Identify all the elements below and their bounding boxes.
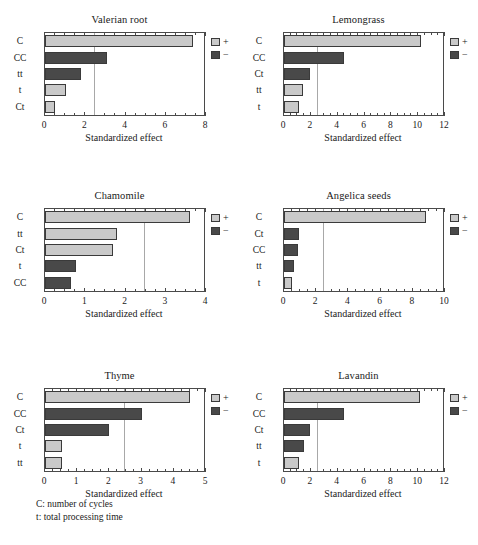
x-tick-label: 5 <box>203 476 208 486</box>
legend-item-positive[interactable]: + <box>450 392 478 403</box>
bar-row <box>45 440 206 452</box>
figure-footnotes: C: number of cycles t: total processing … <box>36 498 123 524</box>
bar-Ct[interactable] <box>45 244 113 256</box>
plot-area <box>283 208 444 292</box>
bar-row <box>284 277 445 289</box>
bar-row <box>284 440 445 452</box>
bar-Ct[interactable] <box>284 228 299 240</box>
bar-tt[interactable] <box>284 84 303 96</box>
x-axis-title: Standardized effect <box>24 308 224 319</box>
x-axis-title: Standardized effect <box>24 132 224 143</box>
x-tick-label: 4 <box>334 476 339 486</box>
chart-panel-lemongrass: LemongrassCCCCtttt024681012Standardized … <box>239 8 478 184</box>
legend-item-positive[interactable]: + <box>450 36 478 47</box>
bar-Ct[interactable] <box>45 101 55 113</box>
legend-item-negative[interactable]: − <box>211 49 239 60</box>
bar-C[interactable] <box>45 211 190 223</box>
bar-row <box>45 260 206 272</box>
legend-item-negative[interactable]: − <box>450 225 478 236</box>
y-axis-label-Ct: Ct <box>0 425 40 435</box>
bar-CC[interactable] <box>284 408 344 420</box>
legend-label: + <box>462 37 468 47</box>
bar-t[interactable] <box>284 277 292 289</box>
bar-t[interactable] <box>45 260 76 272</box>
y-axis-label-Ct: Ct <box>0 102 40 112</box>
legend-label: + <box>223 393 229 403</box>
bar-Ct[interactable] <box>45 424 109 436</box>
bar-tt[interactable] <box>284 260 294 272</box>
bar-CC[interactable] <box>45 408 142 420</box>
bar-row <box>284 408 445 420</box>
legend-label: + <box>462 393 468 403</box>
y-axis-label-tt: tt <box>239 441 279 451</box>
bar-row <box>284 52 445 64</box>
legend-item-negative[interactable]: − <box>211 405 239 416</box>
bar-C[interactable] <box>284 211 426 223</box>
legend-item-negative[interactable]: − <box>450 405 478 416</box>
y-axis-label-CC: CC <box>239 245 279 255</box>
bar-series <box>45 209 204 291</box>
bar-tt[interactable] <box>45 68 81 80</box>
bar-t[interactable] <box>284 457 299 469</box>
bar-row <box>45 457 206 469</box>
chart-panel-thyme: ThymeCCCCtttt012345Standardized effect+− <box>0 364 239 514</box>
bar-C[interactable] <box>45 35 193 47</box>
bar-row <box>45 228 206 240</box>
bar-CC[interactable] <box>45 52 107 64</box>
bar-CC[interactable] <box>284 244 298 256</box>
x-tick-label: 8 <box>388 476 393 486</box>
legend-item-negative[interactable]: − <box>450 49 478 60</box>
legend-swatch-negative-icon <box>211 51 220 59</box>
bar-row <box>45 244 206 256</box>
bar-row <box>45 408 206 420</box>
bar-tt[interactable] <box>45 457 62 469</box>
x-tick-label: 6 <box>361 476 366 486</box>
bar-row <box>45 68 206 80</box>
footnote-t: t: total processing time <box>36 511 123 524</box>
bar-t[interactable] <box>284 101 299 113</box>
legend-item-positive[interactable]: + <box>450 212 478 223</box>
bar-C[interactable] <box>284 391 420 403</box>
panel-grid: Valerian rootCCCtttCt02468Standardized e… <box>0 8 478 514</box>
bar-t[interactable] <box>45 440 62 452</box>
legend-swatch-negative-icon <box>450 51 459 59</box>
bar-CC[interactable] <box>45 277 71 289</box>
legend-swatch-positive-icon <box>211 214 220 222</box>
panel-title: Lavandin <box>239 370 478 381</box>
legend-swatch-positive-icon <box>450 214 459 222</box>
plot-area <box>44 388 205 472</box>
legend-swatch-negative-icon <box>211 407 220 415</box>
legend-item-negative[interactable]: − <box>211 225 239 236</box>
footnote-c: C: number of cycles <box>36 498 123 511</box>
y-axis-label-CC: CC <box>0 409 40 419</box>
y-axis-label-tt: tt <box>239 85 279 95</box>
x-tick-label: 2 <box>307 476 312 486</box>
bar-Ct[interactable] <box>284 424 310 436</box>
legend-item-positive[interactable]: + <box>211 392 239 403</box>
y-axis-label-Ct: Ct <box>239 229 279 239</box>
legend-item-positive[interactable]: + <box>211 212 239 223</box>
bar-C[interactable] <box>45 391 190 403</box>
bar-tt[interactable] <box>45 228 117 240</box>
bar-row <box>284 84 445 96</box>
x-axis-tick-labels: 0246810 <box>283 296 444 308</box>
bar-CC[interactable] <box>284 52 344 64</box>
legend-item-positive[interactable]: + <box>211 36 239 47</box>
bar-Ct[interactable] <box>284 68 310 80</box>
bar-row <box>45 211 206 223</box>
bar-t[interactable] <box>45 84 66 96</box>
y-axis-label-C: C <box>0 212 40 222</box>
panel-title: Valerian root <box>0 14 239 25</box>
legend-swatch-positive-icon <box>450 38 459 46</box>
x-tick-label: 8 <box>409 296 414 306</box>
x-tick-label: 6 <box>377 296 382 306</box>
plot-area <box>44 208 205 292</box>
bar-tt[interactable] <box>284 440 304 452</box>
y-axis-label-Ct: Ct <box>0 245 40 255</box>
x-tick-label: 4 <box>170 476 175 486</box>
bar-row <box>284 228 445 240</box>
bar-series <box>284 209 443 291</box>
x-tick-label: 1 <box>74 476 79 486</box>
bar-C[interactable] <box>284 35 421 47</box>
x-tick-label: 2 <box>307 120 312 130</box>
